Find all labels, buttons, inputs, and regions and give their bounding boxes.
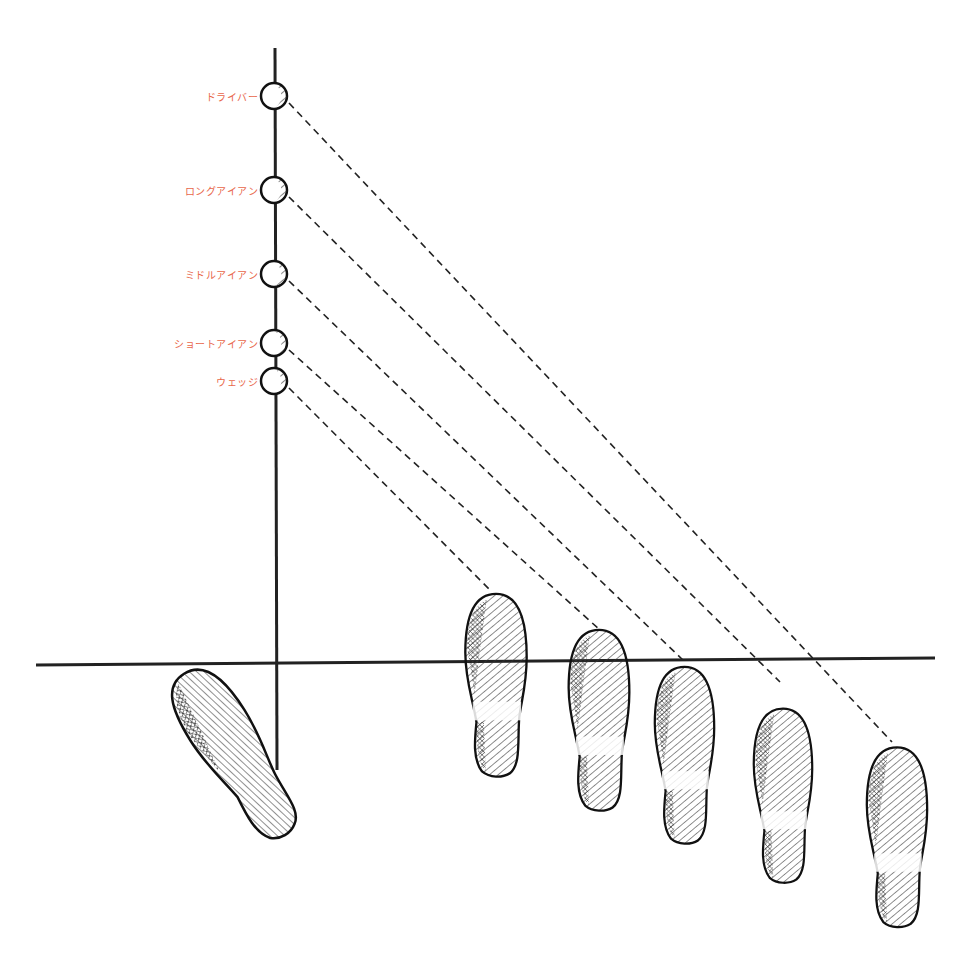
right-foot-driver-icon bbox=[867, 747, 927, 927]
label-long-iron: ロングアイアン bbox=[185, 183, 259, 198]
right-foot-middle-iron-icon bbox=[655, 667, 714, 844]
label-driver: ドライバー bbox=[206, 89, 259, 104]
diagram-stage: ドライバー ロングアイアン ミドルアイアン ショートアイアン ウェッジ bbox=[0, 0, 968, 962]
label-middle-iron: ミドルアイアン bbox=[185, 267, 259, 282]
label-wedge: ウェッジ bbox=[216, 374, 258, 389]
right-foot-short-iron-icon bbox=[569, 630, 630, 811]
ball-long-iron-icon bbox=[261, 177, 287, 203]
right-foot-long-iron-icon bbox=[754, 709, 812, 883]
ball-wedge-icon bbox=[261, 368, 287, 394]
ball-middle-iron-icon bbox=[261, 261, 287, 287]
ball-short-iron-icon bbox=[261, 330, 287, 356]
guide-line-short-iron bbox=[289, 350, 600, 630]
ball-driver-icon bbox=[261, 83, 287, 109]
label-short-iron: ショートアイアン bbox=[174, 336, 258, 351]
left-foot-icon bbox=[159, 657, 312, 851]
right-foot-wedge-icon bbox=[465, 594, 526, 777]
guide-line-wedge bbox=[289, 388, 490, 590]
guide-line-long-iron bbox=[289, 197, 780, 682]
ball-axis-line bbox=[275, 48, 277, 770]
diagram-canvas bbox=[0, 0, 968, 962]
